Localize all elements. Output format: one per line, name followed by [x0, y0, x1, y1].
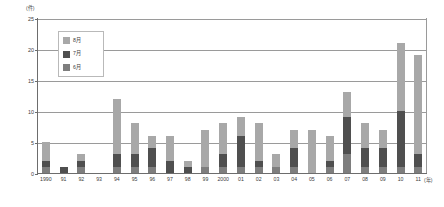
x-axis-tick-label: 2000	[217, 176, 229, 182]
x-axis-tick-label: 93	[96, 176, 102, 182]
bar-slot: 04	[285, 18, 303, 173]
y-axis-tick-label: 10	[28, 109, 34, 115]
chart-legend: 8月7月6月	[58, 31, 104, 77]
stacked-bar	[42, 142, 50, 173]
y-axis-tick-label: 15	[28, 78, 34, 84]
bar-segment-july	[237, 136, 245, 167]
bar-segment-june	[255, 167, 263, 173]
x-axis-tick-label: 98	[185, 176, 191, 182]
stacked-bar	[148, 136, 156, 173]
bar-slot: 99	[197, 18, 215, 173]
y-axis-unit-label: (件)	[26, 4, 34, 11]
stacked-bar	[131, 123, 139, 173]
stacked-bar	[308, 130, 316, 173]
bar-segment-august	[237, 117, 245, 136]
x-axis-tick-label: 96	[149, 176, 155, 182]
bar-slot: 96	[143, 18, 161, 173]
bar-segment-july	[397, 111, 405, 167]
bar-slot: 10	[392, 18, 410, 173]
stacked-bar	[326, 136, 334, 173]
stacked-bar	[237, 117, 245, 173]
bar-segment-july	[414, 154, 422, 166]
bar-segment-june	[131, 167, 139, 173]
bar-slot: 2000	[214, 18, 232, 173]
bar-segment-july	[131, 154, 139, 166]
bar-segment-august	[361, 123, 369, 148]
bar-segment-june	[290, 167, 298, 173]
stacked-bar	[343, 92, 351, 173]
bar-segment-june	[343, 154, 351, 173]
bar-slot: 95	[126, 18, 144, 173]
x-axis-tick-label: 06	[327, 176, 333, 182]
bar-segment-july	[219, 154, 227, 166]
x-axis-tick-label: 09	[380, 176, 386, 182]
legend-item-label: 6月	[73, 65, 81, 70]
x-axis-tick-label: 94	[114, 176, 120, 182]
x-axis-tick-label: 02	[256, 176, 262, 182]
bar-segment-august	[414, 55, 422, 154]
bar-segment-july	[379, 148, 387, 167]
stacked-bar	[290, 130, 298, 173]
stacked-bar	[272, 154, 280, 173]
x-axis-tick-label: 91	[61, 176, 67, 182]
bar-segment-june	[414, 167, 422, 173]
stacked-bar	[255, 123, 263, 173]
bar-segment-june	[42, 167, 50, 173]
legend-item-label: 7月	[73, 51, 81, 56]
bar-slot: 97	[161, 18, 179, 173]
bar-segment-july	[184, 167, 192, 173]
bar-segment-june	[219, 167, 227, 173]
bar-segment-june	[361, 167, 369, 173]
bar-slot: 07	[338, 18, 356, 173]
legend-item: 7月	[63, 50, 99, 59]
y-axis-tick-mark	[35, 174, 38, 175]
bar-slot: 02	[250, 18, 268, 173]
bar-segment-august	[255, 123, 263, 160]
bar-slot: 94	[108, 18, 126, 173]
x-axis-tick-label: 95	[132, 176, 138, 182]
stacked-bar	[166, 136, 174, 173]
bar-segment-july	[166, 161, 174, 173]
x-axis-tick-label: 10	[398, 176, 404, 182]
bar-segment-august	[148, 136, 156, 148]
bar-segment-july	[361, 148, 369, 167]
bar-slot: 01	[232, 18, 250, 173]
stacked-bar	[201, 130, 209, 173]
bar-segment-august	[379, 130, 387, 149]
bar-slot: 08	[356, 18, 374, 173]
x-axis-tick-label: 03	[274, 176, 280, 182]
x-axis-tick-label: 08	[362, 176, 368, 182]
bar-segment-august	[343, 92, 351, 117]
bar-segment-june	[326, 167, 334, 173]
x-axis-unit-label: (年)	[424, 176, 432, 183]
bar-chart: (件) (年) 0510152025 199091929394959697989…	[0, 0, 444, 207]
bar-segment-july	[60, 167, 68, 173]
x-axis-tick-label: 01	[238, 176, 244, 182]
x-axis-tick-label: 92	[78, 176, 84, 182]
bar-segment-august	[42, 142, 50, 161]
legend-swatch-icon	[63, 64, 70, 71]
bar-segment-june	[201, 167, 209, 173]
bar-segment-august	[113, 99, 121, 155]
bar-segment-august	[219, 123, 227, 154]
x-axis-tick-label: 97	[167, 176, 173, 182]
bar-segment-august	[397, 43, 405, 111]
legend-item-label: 8月	[73, 38, 81, 43]
stacked-bar	[184, 161, 192, 173]
x-axis-tick-label: 99	[203, 176, 209, 182]
stacked-bar	[60, 167, 68, 173]
bar-segment-june	[272, 167, 280, 173]
bar-segment-august	[290, 130, 298, 149]
y-axis-tick-label: 25	[28, 16, 34, 22]
x-axis-tick-label: 05	[309, 176, 315, 182]
y-axis-tick-label: 20	[28, 47, 34, 53]
stacked-bar	[379, 130, 387, 173]
bar-slot: 05	[303, 18, 321, 173]
bar-slot: 06	[321, 18, 339, 173]
stacked-bar	[219, 123, 227, 173]
x-axis-tick-label: 11	[416, 176, 421, 182]
stacked-bar	[113, 99, 121, 173]
bar-segment-august	[272, 154, 280, 166]
bar-slot: 09	[374, 18, 392, 173]
bar-slot: 03	[268, 18, 286, 173]
